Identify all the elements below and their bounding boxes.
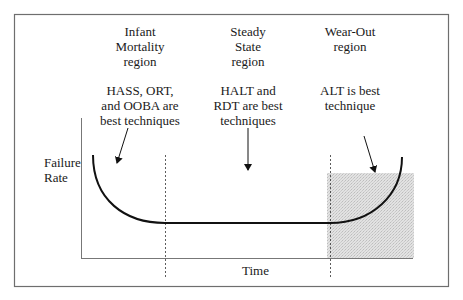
region-title-infant-mortality: Infant Mortality region xyxy=(90,24,190,69)
x-axis-label: Time xyxy=(242,263,269,278)
technique-line: technique xyxy=(300,98,400,113)
technique-line: HALT and xyxy=(198,83,298,98)
region-techniques-infant-mortality: HASS, ORT, and OOBA are best techniques xyxy=(90,83,190,128)
y-axis-label: Failure Rate xyxy=(44,155,81,185)
technique-line: and OOBA are xyxy=(90,98,190,113)
technique-line: RDT are best xyxy=(198,98,298,113)
region-title-line: Infant xyxy=(90,24,190,39)
region-title-line: region xyxy=(300,39,400,54)
region-title-wear-out: Wear-Out region xyxy=(300,24,400,54)
technique-line: ALT is best xyxy=(300,83,400,98)
region-title-steady-state: Steady State region xyxy=(198,24,298,69)
region-techniques-wear-out: ALT is best technique xyxy=(300,83,400,113)
wear-out-shaded-area xyxy=(327,173,414,258)
technique-line: HASS, ORT, xyxy=(90,83,190,98)
y-axis-label-line: Rate xyxy=(44,170,81,185)
arrow-infant-mortality xyxy=(117,128,128,163)
region-title-line: region xyxy=(90,54,190,69)
region-techniques-steady-state: HALT and RDT are best techniques xyxy=(198,83,298,128)
region-title-line: State xyxy=(198,39,298,54)
technique-line: techniques xyxy=(198,113,298,128)
technique-line: best techniques xyxy=(90,113,190,128)
region-title-line: Steady xyxy=(198,24,298,39)
region-title-line: Mortality xyxy=(90,39,190,54)
region-title-line: Wear-Out xyxy=(300,24,400,39)
region-title-line: region xyxy=(198,54,298,69)
arrow-wear-out xyxy=(364,136,375,172)
y-axis-label-line: Failure xyxy=(44,155,81,170)
